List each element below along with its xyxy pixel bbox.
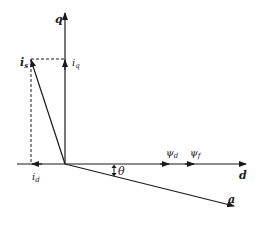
dq-vector-diagram: q d a is iq id ψd ψf θ bbox=[0, 0, 263, 225]
iq-label: iq bbox=[72, 57, 80, 70]
psi-d-label: ψd bbox=[166, 147, 179, 160]
is-vector bbox=[31, 60, 65, 164]
a-axis bbox=[65, 164, 234, 206]
id-label: id bbox=[32, 171, 40, 184]
q-axis-label: q bbox=[55, 13, 63, 26]
d-axis-label: d bbox=[239, 169, 247, 182]
is-label: is bbox=[20, 56, 28, 70]
psi-f-label: ψf bbox=[190, 147, 202, 160]
theta-arrow-up-icon bbox=[112, 165, 117, 169]
a-axis-label: a bbox=[228, 193, 235, 206]
theta-label: θ bbox=[118, 165, 125, 178]
